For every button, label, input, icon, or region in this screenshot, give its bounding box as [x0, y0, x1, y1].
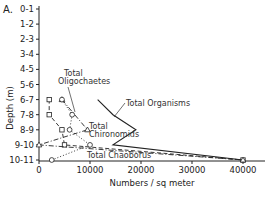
x-tick-label: 0 — [36, 165, 41, 175]
y-tick-label: 4-5 — [20, 64, 34, 74]
y-ticks: 0-11-22-33-44-55-66-77-88-99-1010-11 — [9, 4, 39, 165]
y-tick-label: 6-7 — [20, 95, 34, 105]
x-tick-label: 40000 — [229, 165, 256, 175]
y-axis-title: Depth (m) — [5, 86, 15, 130]
panel-label: A. — [3, 4, 13, 15]
annotation-total-organisms: Total Organisms — [125, 99, 190, 108]
y-tick-label: 0-1 — [20, 4, 34, 14]
annotation-chironomids-line2: Chironomids — [89, 130, 139, 139]
x-tick-label: 10000 — [76, 165, 103, 175]
annotation-organisms-arrow — [114, 103, 125, 117]
y-tick-label: 7-8 — [20, 110, 34, 120]
y-tick-label: 5-6 — [20, 80, 34, 90]
y-tick-label: 8-9 — [20, 125, 34, 135]
circle-marker-icon — [67, 127, 72, 132]
square-marker-icon — [47, 97, 51, 101]
annotation-oligochaetes-line2: Oligochaetes — [58, 77, 110, 86]
y-tick-label: 2-3 — [20, 34, 34, 44]
y-tick-label: 9-10 — [15, 140, 34, 150]
square-marker-icon — [60, 128, 64, 132]
y-tick-label: 10-11 — [9, 155, 34, 165]
depth-profile-chart: A. 0-11-22-33-44-55-66-77-88-99-1010-11 … — [0, 0, 272, 199]
x-ticks: 010000200003000040000 — [36, 161, 256, 175]
x-axis-title: Numbers / sq meter — [110, 178, 195, 188]
x-tick-label: 20000 — [127, 165, 154, 175]
circle-marker-icon — [60, 97, 65, 102]
square-marker-icon — [47, 113, 51, 117]
circle-marker-icon — [49, 158, 54, 163]
y-tick-label: 3-4 — [20, 49, 34, 59]
x-tick-label: 30000 — [178, 165, 205, 175]
annotation-chaoborus: Total Chaoborus — [86, 151, 151, 160]
circle-marker-icon — [88, 143, 93, 148]
circle-marker-icon — [70, 112, 75, 117]
y-tick-label: 1-2 — [20, 19, 34, 29]
